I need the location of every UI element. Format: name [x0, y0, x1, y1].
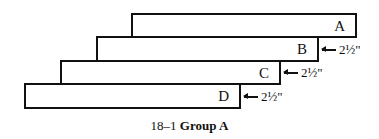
board-c: C — [60, 60, 281, 85]
figure-caption: 18–1 Group A — [0, 118, 379, 134]
caption-number: 18–1 — [151, 118, 177, 133]
dimension-text: 2½" — [261, 89, 283, 105]
dimension-text: 2½" — [339, 42, 361, 58]
board-d: D — [24, 83, 241, 109]
board-label-a: A — [334, 17, 345, 34]
board-b: B — [96, 36, 319, 62]
dimension-b: 2½" — [322, 42, 361, 58]
dimension-c: 2½" — [284, 65, 323, 81]
left-arrow-icon — [322, 49, 336, 51]
left-arrow-icon — [284, 72, 298, 74]
caption-title: Group A — [180, 118, 229, 133]
left-arrow-icon — [244, 96, 258, 98]
board-label-d: D — [218, 88, 229, 105]
board-a: A — [131, 13, 357, 38]
board-label-c: C — [259, 64, 269, 81]
dimension-d: 2½" — [244, 89, 283, 105]
dimension-text: 2½" — [301, 65, 323, 81]
board-label-b: B — [297, 41, 307, 58]
